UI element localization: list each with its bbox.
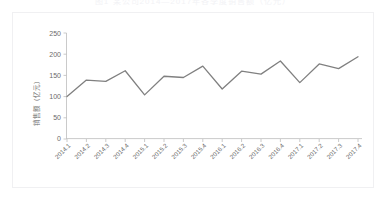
x-tick-label: 2015.3 xyxy=(170,141,189,160)
x-tick-label: 2017.3 xyxy=(325,141,344,160)
x-tick-label: 2017.1 xyxy=(286,141,305,160)
chart-plot: 销售额（亿元） 250 200 150 100 50 0 2014.12014.… xyxy=(0,0,386,200)
x-tick-label: 2016.1 xyxy=(209,141,228,160)
x-tick-label: 2014.4 xyxy=(112,141,131,160)
y-tick-label: 100 xyxy=(49,93,61,100)
x-tick-label: 2015.4 xyxy=(189,141,208,160)
x-tick-label: 2016.3 xyxy=(247,141,266,160)
chart-root: 图1 某公司2014—2017年各季度销售额（亿元） 销售额（亿元） 250 2… xyxy=(0,0,386,200)
x-tick-label: 2016.4 xyxy=(267,141,286,160)
x-tick-group: 2014.12014.22014.32014.42015.12015.22015… xyxy=(53,139,363,160)
x-tick-label: 2014.1 xyxy=(53,141,72,160)
x-tick-label: 2017.2 xyxy=(306,141,325,160)
y-tick-label: 250 xyxy=(49,30,61,37)
y-tick-label: 150 xyxy=(49,72,61,79)
x-tick-label: 2016.2 xyxy=(228,141,247,160)
series-line-销售额 xyxy=(67,57,358,97)
y-tick-label: 0 xyxy=(57,135,61,142)
y-tick-label: 200 xyxy=(49,51,61,58)
y-tick-label: 50 xyxy=(53,114,61,121)
x-tick-label: 2015.2 xyxy=(150,141,169,160)
y-tick-labels: 250 200 150 100 50 0 xyxy=(49,30,61,142)
y-axis-title: 销售额（亿元） xyxy=(32,77,41,126)
y-tick-marks xyxy=(64,33,67,139)
x-tick-label: 2014.2 xyxy=(73,141,92,160)
x-tick-label: 2015.1 xyxy=(131,141,150,160)
x-tick-label: 2014.3 xyxy=(92,141,111,160)
x-tick-label: 2017.4 xyxy=(344,141,363,160)
